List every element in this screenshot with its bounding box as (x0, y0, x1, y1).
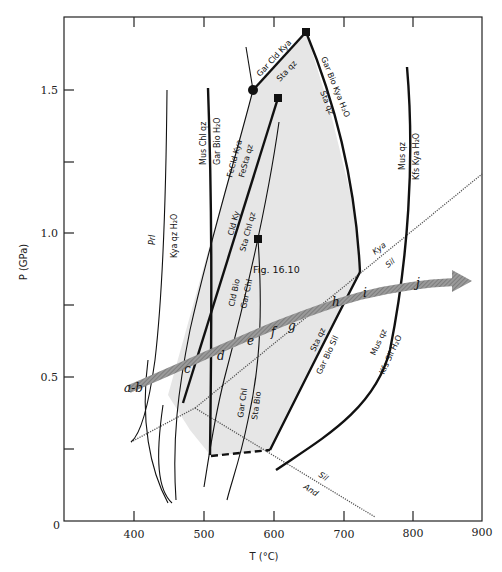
reaction-label: Mus qz (369, 328, 389, 357)
path-label: g (288, 319, 296, 333)
reaction-label: Kfs Kya H₂O (412, 133, 421, 180)
y-tick-label: 0.5 (41, 371, 59, 384)
reaction-label: Gar Bio H₂O (213, 117, 222, 165)
path-label: c (184, 362, 191, 376)
reaction-label: Prl (148, 234, 157, 245)
reaction-label: Sil (384, 256, 398, 269)
path-label: h (332, 295, 340, 309)
reaction-label: Mus qz (398, 142, 407, 170)
reaction-label: Mus Chl qz (199, 122, 208, 165)
x-axis-label: T (°C) (248, 551, 278, 562)
figure-reference: Fig. 16.10 (253, 264, 300, 275)
y-tick-label: 1.0 (41, 227, 59, 240)
reaction-label: Sil (317, 470, 331, 483)
x-tick-label: 500 (194, 528, 215, 541)
invariant-point-circle (248, 85, 258, 95)
reaction-label: Kya qz H₂O (170, 214, 179, 258)
invariant-point-square (254, 235, 262, 243)
y-tick-label: 1.5 (41, 84, 59, 97)
path-label: d (217, 349, 225, 363)
reaction-label: And (301, 482, 321, 499)
x-tick-label: 900 (472, 526, 493, 539)
path-label: i (363, 286, 367, 300)
x-tick-label: 800 (403, 527, 424, 540)
path-label: e (247, 334, 254, 348)
path-label: a-b (124, 381, 143, 395)
phase-diagram: 400 500 600 700 800 900 0 0.5 1.0 1.5 T … (0, 0, 502, 572)
y-tick-label: 0 (53, 519, 60, 532)
invariant-point-square (274, 94, 282, 102)
shaded-field (168, 32, 360, 456)
y-ticks (64, 90, 74, 449)
y-axis-label: P (GPa) (18, 244, 29, 281)
x-tick-label: 400 (124, 528, 145, 541)
invariant-point-square (302, 28, 310, 36)
x-tick-label: 600 (264, 528, 285, 541)
x-tick-label: 700 (334, 528, 355, 541)
reaction-label: Kya (371, 240, 388, 256)
